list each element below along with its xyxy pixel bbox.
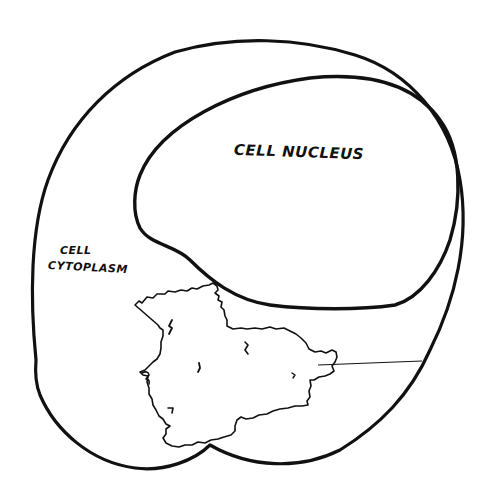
organelle-mark: [292, 373, 295, 378]
organelle-mark: [168, 408, 173, 413]
cytoplasm-label-line1: CELL: [60, 244, 92, 257]
nucleus: [135, 77, 458, 309]
organelle-mark: [245, 342, 248, 354]
organelle-mark: [198, 363, 200, 372]
organelle-mark: [169, 320, 172, 334]
cell-membrane: [32, 41, 463, 469]
